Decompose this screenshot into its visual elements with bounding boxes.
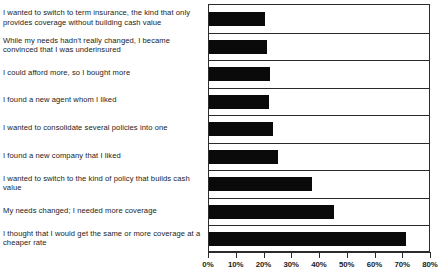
x-tick-mark [319, 252, 320, 258]
bar [209, 150, 278, 164]
x-tick-mark [236, 252, 237, 258]
bar [209, 40, 267, 54]
x-tick-label: 60% [367, 260, 383, 269]
x-tick-mark [375, 252, 376, 258]
category-label-column: I wanted to switch to term insurance, th… [0, 0, 206, 252]
bar-band [209, 5, 429, 33]
bar-band [209, 198, 429, 226]
bar [209, 232, 406, 246]
x-tick-label: 50% [339, 260, 355, 269]
bar [209, 67, 270, 81]
category-label: I found a new agent whom I liked [3, 95, 203, 105]
category-label: I found a new company that I liked [3, 151, 203, 161]
horizontal-bar-chart: I wanted to switch to term insurance, th… [0, 0, 439, 276]
bar [209, 177, 312, 191]
category-label: I wanted to consolidate several policies… [3, 123, 203, 133]
category-label: While my needs hadn't really changed, I … [3, 36, 203, 55]
bar-band [209, 143, 429, 171]
bar-band [209, 115, 429, 143]
bar-band [209, 60, 429, 88]
bar [209, 205, 334, 219]
x-tick-label: 10% [228, 260, 244, 269]
bar-band [209, 170, 429, 198]
bar [209, 95, 269, 109]
category-label: I wanted to switch to the kind of policy… [3, 174, 203, 193]
category-label: I thought that I would get the same or m… [3, 229, 203, 248]
plot-area [208, 4, 430, 252]
bar-band [209, 88, 429, 116]
x-tick-label: 30% [283, 260, 299, 269]
x-tick-mark [402, 252, 403, 258]
x-tick-mark [264, 252, 265, 258]
category-label: My needs changed; I needed more coverage [3, 206, 203, 216]
x-tick-label: 70% [394, 260, 410, 269]
category-label: I could afford more, so I bought more [3, 68, 203, 78]
bar-band [209, 33, 429, 61]
bar-band [209, 225, 429, 253]
x-tick-mark [347, 252, 348, 258]
x-tick-label: 40% [311, 260, 327, 269]
x-tick-label: 20% [256, 260, 272, 269]
x-tick-label: 80% [422, 260, 438, 269]
x-axis: 0%10%20%30%40%50%60%70%80% [208, 252, 430, 276]
bar [209, 122, 273, 136]
category-label: I wanted to switch to term insurance, th… [3, 8, 203, 27]
x-tick-mark [430, 252, 431, 258]
bar [209, 12, 265, 26]
x-tick-mark [208, 252, 209, 258]
x-tick-label: 0% [202, 260, 213, 269]
x-tick-mark [291, 252, 292, 258]
